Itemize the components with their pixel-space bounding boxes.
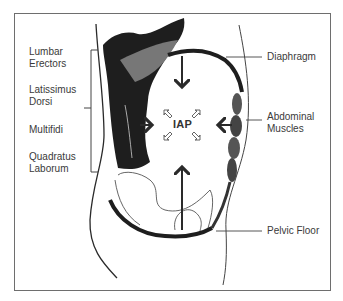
label-pelvic-floor: Pelvic Floor	[267, 225, 319, 237]
label-lumbar-erectors: LumbarErectors	[29, 46, 66, 70]
label-abdominal-muscles: AbdominalMuscles	[267, 111, 314, 135]
left-bracket	[84, 50, 98, 172]
pelvis	[118, 172, 213, 228]
label-multifidi: Multifidi	[29, 124, 63, 136]
back-muscles	[103, 18, 184, 169]
pelvic-floor-shape	[110, 200, 212, 236]
label-diaphragm: Diaphragm	[267, 51, 316, 63]
iap-label: IAP	[173, 118, 192, 130]
label-quadratus-laborum: QuadratusLaborum	[29, 151, 76, 175]
label-latissimus-dorsi: LatissimusDorsi	[29, 84, 76, 108]
abdominal-segment	[232, 93, 242, 115]
